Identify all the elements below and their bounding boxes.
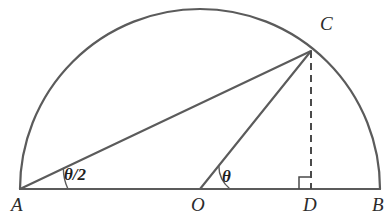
right-angle-marker-icon [299, 177, 311, 189]
geometry-canvas: A O D B C θ/2 θ [0, 0, 386, 218]
vertex-label-o: O [191, 194, 205, 215]
angle-label-theta: θ [222, 167, 231, 186]
vertex-label-a: A [9, 194, 23, 215]
vertex-label-c: C [320, 13, 333, 34]
vertex-label-d: D [302, 194, 317, 215]
vertex-label-b: B [372, 194, 384, 215]
semicircle-arc [20, 9, 380, 189]
segment-radius-oc [200, 51, 311, 189]
geometry-figure: A O D B C θ/2 θ [0, 0, 386, 218]
angle-label-theta-over-two: θ/2 [64, 165, 87, 184]
